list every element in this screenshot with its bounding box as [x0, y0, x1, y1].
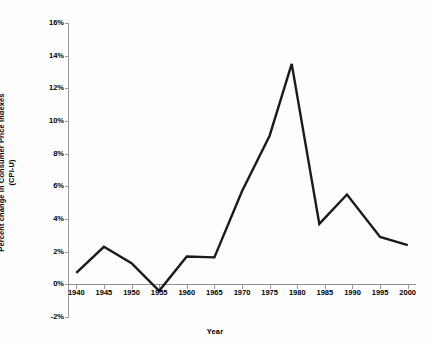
plot-area [68, 23, 416, 317]
y-axis-tick-labels: -2%0%2%4%6%8%10%12%14%16% [38, 23, 64, 317]
x-tick-label: 1955 [145, 289, 173, 297]
y-tick-label: 14% [49, 52, 64, 60]
y-tick-mark [65, 317, 69, 318]
y-tick-label: 0% [53, 280, 64, 288]
x-axis-tick-labels: 1940194519501955196019651970197519801985… [68, 289, 416, 301]
x-tick-label: 1980 [283, 289, 311, 297]
x-axis-title: Year [0, 327, 430, 336]
x-tick-label: 1970 [228, 289, 256, 297]
x-tick-label: 1990 [338, 289, 366, 297]
x-tick-label: 1940 [62, 289, 90, 297]
y-tick-label: 8% [53, 150, 64, 158]
x-tick-label: 1985 [311, 289, 339, 297]
x-tick-label: 1995 [366, 289, 394, 297]
y-tick-label: 12% [49, 84, 64, 92]
series-polyline-cpi [76, 64, 407, 291]
y-tick-label: 6% [53, 182, 64, 190]
x-tick-label: 1950 [118, 289, 146, 297]
x-tick-label: 1965 [200, 289, 228, 297]
x-tick-label: 1960 [173, 289, 201, 297]
x-tick-label: 1975 [256, 289, 284, 297]
x-tick-label: 1945 [90, 289, 118, 297]
y-axis-title: Percent change in Consumer Price Indexes… [0, 0, 36, 345]
y-tick-label: -2% [51, 313, 64, 321]
data-series-line [68, 23, 416, 317]
cpi-line-chart: Percent change in Consumer Price Indexes… [0, 0, 430, 345]
y-tick-label: 16% [49, 19, 64, 27]
y-tick-label: 2% [53, 248, 64, 256]
y-axis-title-line-1: Percent change in Consumer Price Indexes [0, 93, 7, 251]
x-tick-label: 2000 [394, 289, 422, 297]
y-tick-label: 10% [49, 117, 64, 125]
y-axis-title-line-2: (CPI-U) [7, 93, 17, 251]
y-tick-label: 4% [53, 215, 64, 223]
